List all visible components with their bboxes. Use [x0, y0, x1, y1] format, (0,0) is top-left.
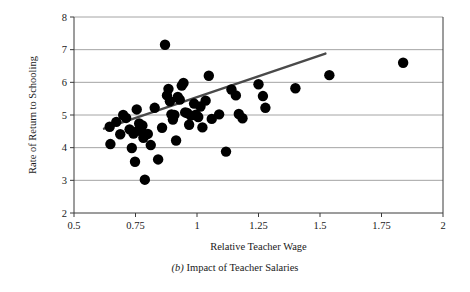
data-point	[157, 123, 167, 133]
data-point	[214, 109, 224, 119]
data-point	[178, 78, 188, 88]
x-tick-label: 1.25	[249, 220, 267, 231]
data-point	[169, 110, 179, 120]
data-point	[184, 120, 194, 130]
data-point	[398, 58, 408, 68]
x-tick-label: 1.75	[372, 220, 390, 231]
data-point	[197, 122, 207, 132]
x-tick-label: 1	[194, 220, 199, 231]
y-tick-label: 8	[62, 12, 67, 23]
y-tick-label: 6	[62, 77, 67, 88]
data-point	[253, 79, 263, 89]
data-point	[258, 91, 268, 101]
caption-text: Impact of Teacher Salaries	[186, 262, 298, 273]
data-point	[115, 129, 125, 139]
figure-container: 23456780.50.7511.251.51.752Relative Teac…	[0, 0, 470, 292]
figure-caption: (b) Impact of Teacher Salaries	[0, 262, 470, 273]
data-point	[132, 104, 142, 114]
data-point	[105, 139, 115, 149]
data-point	[153, 154, 163, 164]
data-point	[237, 113, 247, 123]
data-point	[231, 90, 241, 100]
caption-label: (b)	[172, 262, 184, 273]
x-tick-label: 0.75	[126, 220, 144, 231]
data-point	[149, 103, 159, 113]
y-tick-label: 5	[62, 110, 67, 121]
data-point	[127, 143, 137, 153]
y-tick-label: 4	[62, 142, 68, 153]
data-point	[290, 83, 300, 93]
x-tick-label: 2	[440, 220, 445, 231]
y-tick-label: 2	[62, 208, 67, 219]
data-point	[221, 146, 231, 156]
data-point	[140, 174, 150, 184]
data-point	[175, 94, 185, 104]
data-point	[260, 103, 270, 113]
x-tick-label: 0.5	[67, 220, 80, 231]
data-point	[324, 70, 334, 80]
data-point	[163, 84, 173, 94]
x-axis-title: Relative Teacher Wage	[210, 241, 307, 252]
data-point	[146, 140, 156, 150]
y-tick-label: 7	[62, 44, 67, 55]
data-point	[121, 113, 131, 123]
data-point	[143, 129, 153, 139]
y-axis-title: Rate of Return to Schooling	[27, 55, 38, 174]
data-point	[130, 157, 140, 167]
scatter-plot: 23456780.50.7511.251.51.752Relative Teac…	[0, 0, 470, 292]
data-point	[160, 40, 170, 50]
x-tick-label: 1.5	[313, 220, 326, 231]
data-point	[193, 112, 203, 122]
data-point	[171, 135, 181, 145]
data-point	[200, 95, 210, 105]
y-tick-label: 3	[62, 175, 67, 186]
data-point	[204, 71, 214, 81]
